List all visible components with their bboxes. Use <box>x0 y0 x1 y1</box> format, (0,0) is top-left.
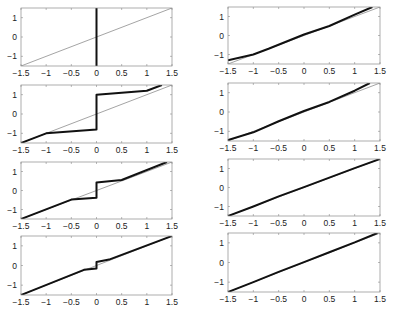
x-tick-label: −1 <box>41 221 51 231</box>
x-tick-label: 0 <box>94 221 99 231</box>
x-tick-label: 1 <box>144 297 149 307</box>
y-tick-label: 0 <box>219 31 224 41</box>
x-tick-label: −1.5 <box>220 218 237 228</box>
y-tick-label: −1 <box>7 205 17 215</box>
quantizer-line <box>21 85 162 143</box>
quantizer-line <box>228 233 377 292</box>
x-tick-label: 1 <box>144 145 149 155</box>
x-tick-label: 1 <box>352 218 357 228</box>
y-tick-label: −1 <box>214 126 224 136</box>
x-tick-label: 0.5 <box>323 218 335 228</box>
panel-right-row-3: −1.5−1−0.500.511.5−101 <box>214 159 386 228</box>
panel-left-row-3: −1.5−1−0.500.511.5−101 <box>7 162 178 231</box>
x-tick-label: −1.5 <box>220 66 237 76</box>
x-tick-label: −0.5 <box>270 294 287 304</box>
quantizer-line <box>228 7 372 60</box>
x-tick-label: −1 <box>248 66 258 76</box>
x-tick-label: −0.5 <box>63 145 80 155</box>
x-tick-label: 1.5 <box>374 66 386 76</box>
panel-left-row-4: −1.5−1−0.500.511.5−101 <box>7 236 178 307</box>
y-tick-label: 1 <box>12 90 17 100</box>
x-tick-label: 1.5 <box>374 294 386 304</box>
x-tick-label: 0.5 <box>116 297 128 307</box>
quantizer-line <box>228 83 370 140</box>
x-tick-label: −0.5 <box>270 143 287 153</box>
y-tick-label: 1 <box>12 241 17 251</box>
y-tick-label: 1 <box>12 167 17 177</box>
x-tick-label: −1.5 <box>220 143 237 153</box>
x-tick-label: −0.5 <box>63 221 80 231</box>
x-tick-label: −1.5 <box>13 145 30 155</box>
x-tick-label: 0.5 <box>116 68 128 78</box>
x-tick-label: 0.5 <box>323 143 335 153</box>
x-tick-label: 1.5 <box>166 297 178 307</box>
x-tick-label: −1 <box>41 68 51 78</box>
y-tick-label: 0 <box>219 258 224 268</box>
x-tick-label: −0.5 <box>270 66 287 76</box>
y-tick-label: 0 <box>12 109 17 119</box>
y-tick-label: 0 <box>219 107 224 117</box>
x-tick-label: −1 <box>248 143 258 153</box>
y-tick-label: −1 <box>7 280 17 290</box>
x-tick-label: −1.5 <box>13 297 30 307</box>
panel-left-row-1: −1.5−1−0.500.511.5−101 <box>7 8 178 78</box>
y-tick-label: −1 <box>7 128 17 138</box>
x-tick-label: 1 <box>352 294 357 304</box>
x-tick-label: −1 <box>41 145 51 155</box>
x-tick-label: −0.5 <box>63 297 80 307</box>
x-tick-label: 0.5 <box>116 221 128 231</box>
y-tick-label: 1 <box>219 238 224 248</box>
x-tick-label: −1.5 <box>13 221 30 231</box>
x-tick-label: 1.5 <box>166 145 178 155</box>
y-tick-label: −1 <box>7 51 17 61</box>
x-tick-label: −1 <box>41 297 51 307</box>
y-tick-label: 0 <box>219 183 224 193</box>
x-tick-label: 1 <box>144 221 149 231</box>
x-tick-label: 0.5 <box>116 145 128 155</box>
y-tick-label: 1 <box>219 88 224 98</box>
panel-right-row-1: −1.5−1−0.500.511.5−101 <box>214 7 386 76</box>
x-tick-label: 0 <box>302 218 307 228</box>
figure-canvas: −1.5−1−0.500.511.5−101−1.5−1−0.500.511.5… <box>0 0 395 318</box>
x-tick-label: 0 <box>302 294 307 304</box>
x-tick-label: 1 <box>144 68 149 78</box>
y-tick-label: 1 <box>12 13 17 23</box>
x-tick-label: −1.5 <box>220 294 237 304</box>
x-tick-label: 1.5 <box>374 218 386 228</box>
y-tick-label: −1 <box>214 277 224 287</box>
y-tick-label: 0 <box>12 32 17 42</box>
x-tick-label: −1 <box>248 218 258 228</box>
y-tick-label: −1 <box>214 202 224 212</box>
quantizer-line <box>21 236 172 295</box>
y-tick-label: 0 <box>12 261 17 271</box>
x-tick-label: 0 <box>94 68 99 78</box>
x-tick-label: 0.5 <box>323 294 335 304</box>
x-tick-label: −0.5 <box>63 68 80 78</box>
x-tick-label: −0.5 <box>270 218 287 228</box>
y-tick-label: 1 <box>219 164 224 174</box>
x-tick-label: 0 <box>302 143 307 153</box>
quantizer-line <box>228 159 380 216</box>
x-tick-label: 0.5 <box>323 66 335 76</box>
x-tick-label: 1.5 <box>166 221 178 231</box>
x-tick-label: −1.5 <box>13 68 30 78</box>
x-tick-label: 1.5 <box>166 68 178 78</box>
x-tick-label: 0 <box>302 66 307 76</box>
panel-right-row-4: −1.5−1−0.500.511.5−101 <box>214 233 386 304</box>
x-tick-label: 0 <box>94 145 99 155</box>
x-tick-label: 1 <box>352 66 357 76</box>
x-tick-label: 1.5 <box>374 143 386 153</box>
x-tick-label: −1 <box>248 294 258 304</box>
y-tick-label: 0 <box>12 186 17 196</box>
x-tick-label: 0 <box>94 297 99 307</box>
y-tick-label: −1 <box>214 50 224 60</box>
x-tick-label: 1 <box>352 143 357 153</box>
y-tick-label: 1 <box>219 12 224 22</box>
panel-left-row-2: −1.5−1−0.500.511.5−101 <box>7 85 178 155</box>
panel-right-row-2: −1.5−1−0.500.511.5−101 <box>214 83 386 153</box>
quantizer-line <box>21 162 167 219</box>
